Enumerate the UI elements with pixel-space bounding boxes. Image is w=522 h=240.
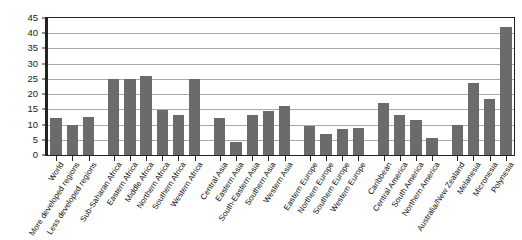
y-tick-label: 20 xyxy=(27,89,38,99)
y-tick-label: 35 xyxy=(27,44,38,54)
bar[interactable] xyxy=(50,118,61,155)
y-tick-label: 45 xyxy=(27,13,38,23)
y-tick-label: 10 xyxy=(27,120,38,130)
y-tick-label: 0 xyxy=(33,150,38,160)
x-tick-label-text: Australia/New Zealand xyxy=(416,161,467,233)
y-tick-label: 5 xyxy=(33,135,38,145)
bar-chart: 051015202530354045 WorldMore developed r… xyxy=(0,0,522,240)
y-tick-label: 25 xyxy=(27,74,38,84)
x-axis-labels: WorldMore developed regionsLess develope… xyxy=(48,161,514,240)
y-tick-label: 30 xyxy=(27,59,38,69)
y-tick-label: 40 xyxy=(27,28,38,38)
bar-slot xyxy=(48,18,64,155)
y-axis: 051015202530354045 xyxy=(0,17,47,156)
bar-slot xyxy=(64,18,80,155)
y-tick-label: 15 xyxy=(27,105,38,115)
